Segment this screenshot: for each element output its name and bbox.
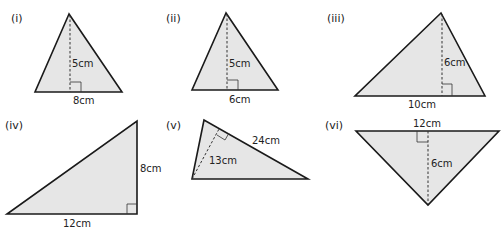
figure-label-i: (i) bbox=[11, 12, 23, 25]
triangle-iv: (iv) 8cm 12cm bbox=[5, 119, 162, 229]
figure-label-iv: (iv) bbox=[5, 119, 23, 132]
triangle-i: (i) 5cm 8cm bbox=[11, 12, 122, 106]
triangle-ii: (ii) 5cm 6cm bbox=[166, 12, 278, 105]
base-label-vi: 12cm bbox=[413, 118, 441, 129]
figure-label-vi: (vi) bbox=[325, 119, 343, 132]
triangle-iii: (iii) 6cm 10cm bbox=[327, 12, 485, 110]
figure-label-iii: (iii) bbox=[327, 12, 345, 25]
base-label-ii: 6cm bbox=[229, 94, 251, 105]
height-label-iv: 8cm bbox=[140, 163, 162, 174]
height-label-v: 13cm bbox=[209, 155, 237, 166]
side-label-v: 24cm bbox=[252, 135, 280, 146]
triangles-diagram: (i) 5cm 8cm (ii) 5cm 6cm (iii) 6cm 10cm … bbox=[0, 0, 503, 234]
height-label-iii: 6cm bbox=[444, 57, 466, 68]
figure-label-v: (v) bbox=[166, 119, 181, 132]
triangle-vi: (vi) 12cm 6cm bbox=[325, 118, 499, 205]
height-label-ii: 5cm bbox=[229, 58, 251, 69]
triangle-v: (v) 24cm 13cm bbox=[166, 119, 308, 179]
base-label-iii: 10cm bbox=[408, 99, 436, 110]
height-label-i: 5cm bbox=[72, 58, 94, 69]
height-label-vi: 6cm bbox=[431, 158, 453, 169]
base-label-iv: 12cm bbox=[63, 218, 91, 229]
figure-label-ii: (ii) bbox=[166, 12, 181, 25]
base-label-i: 8cm bbox=[73, 95, 95, 106]
